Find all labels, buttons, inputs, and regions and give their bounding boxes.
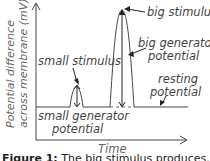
y-axis-label-line2: across membrane (mV) (17, 0, 30, 128)
big-generator-arrowhead-icon (128, 51, 134, 57)
big-generator-label-line1: big generator (138, 37, 210, 49)
small-generator-label-line1: small generator (38, 110, 129, 122)
big-generator-label-line2: potential (148, 50, 199, 62)
resting-label-line1: resting (158, 73, 198, 85)
caption-prefix: Figure 1: (2, 152, 58, 161)
resting-arrowhead-icon (160, 100, 165, 106)
small-stimulus-arrowhead-icon (74, 78, 79, 85)
big-stimulus-arrowhead-icon (124, 6, 130, 12)
big-stimulus-label: big stimulus (147, 6, 210, 18)
caption-text: The big stimulus produces... (61, 152, 210, 161)
resting-label-line2: potential (150, 86, 201, 98)
y-axis-label-line1: Potential difference (4, 0, 17, 128)
small-generator-label-line2: potential (52, 123, 103, 135)
figure-caption: Figure 1: The big stimulus produces... (2, 152, 210, 161)
y-axis-label: Potential difference across membrane (mV… (4, 0, 30, 128)
small-stimulus-label: small stimulus (38, 55, 121, 67)
